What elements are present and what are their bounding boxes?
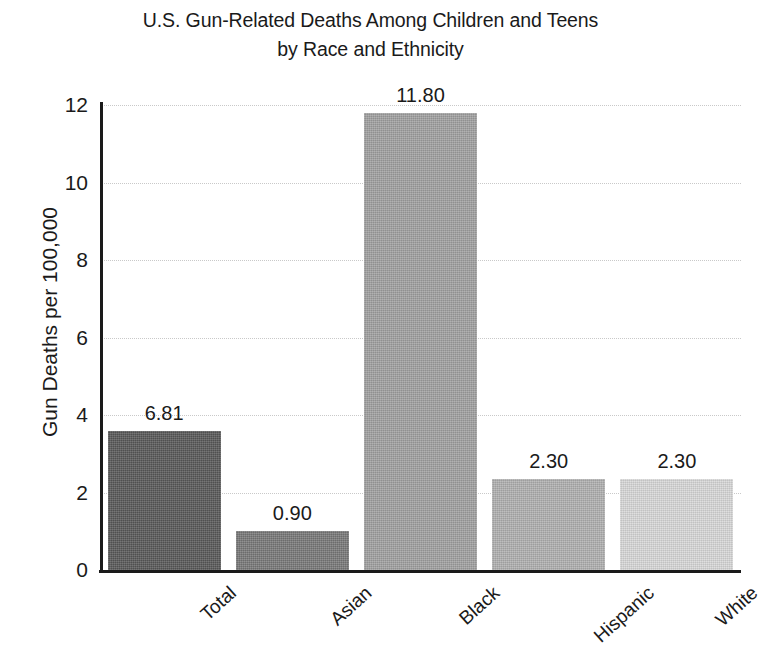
x-axis-tick-label: Asian — [327, 582, 377, 630]
x-axis-tick-label: Total — [196, 582, 241, 625]
x-axis-tick-label: Hispanic — [589, 582, 658, 647]
x-axis-tick-label: Black — [454, 582, 503, 629]
x-axis-tick-label: White — [711, 582, 762, 631]
